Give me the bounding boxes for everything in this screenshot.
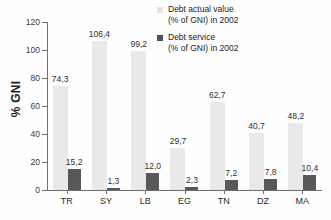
legend-label-line1: Debt service — [168, 32, 238, 43]
bar-value-label: 7,2 — [225, 168, 237, 178]
bar-chart: % GNI 020406080100120 74,315,2106,41,399… — [0, 0, 331, 220]
y-tick-label: 20 — [31, 157, 40, 167]
x-axis-label-EG: EG — [178, 196, 191, 206]
legend-label-line2: (% of GNI) in 2002 — [168, 15, 238, 26]
bar-value-label: 10,4 — [302, 163, 319, 173]
bar-value-label: 2,3 — [186, 175, 198, 185]
bar-group: 48,210,4 — [283, 22, 322, 190]
x-axis-label-LB: LB — [140, 196, 151, 206]
bar-MA-series1: 48,2 — [288, 123, 303, 190]
x-axis-label-DZ: DZ — [257, 196, 269, 206]
bar-value-label: 48,2 — [288, 111, 305, 121]
x-tick-mark — [185, 190, 186, 194]
bar-group: 40,77,8 — [243, 22, 282, 190]
legend-label: Debt actual value(% of GNI) in 2002 — [168, 4, 238, 25]
x-axis-label-TR: TR — [61, 196, 73, 206]
y-tick-label: 120 — [26, 17, 40, 27]
x-axis-label-MA: MA — [296, 196, 310, 206]
x-tick-mark — [106, 190, 107, 194]
x-axis-label-TN: TN — [218, 196, 230, 206]
y-tick-0: 0 — [47, 190, 52, 191]
y-axis-label: % GNI — [9, 64, 23, 134]
bar-DZ-series2: 7,8 — [264, 179, 277, 190]
x-tick-mark — [224, 190, 225, 194]
legend-item-1: Debt actual value(% of GNI) in 2002 — [157, 4, 238, 25]
bar-value-label: 40,7 — [248, 121, 265, 131]
bar-group: 106,41,3 — [86, 22, 125, 190]
bar-TR-series2: 15,2 — [68, 169, 81, 190]
x-tick-mark — [263, 190, 264, 194]
bar-TN-series2: 7,2 — [225, 180, 238, 190]
y-tick-label: 80 — [31, 73, 40, 83]
x-axis-label-SY: SY — [100, 196, 112, 206]
bar-value-label: 1,3 — [108, 176, 120, 186]
bar-value-label: 15,2 — [66, 157, 83, 167]
bar-TN-series1: 62,7 — [210, 102, 225, 190]
y-tick-mark — [42, 190, 47, 191]
y-tick-label: 40 — [31, 129, 40, 139]
bar-value-label: 99,2 — [130, 39, 147, 49]
legend-swatch-icon — [157, 35, 163, 41]
legend-label-line2: (% of GNI) in 2002 — [168, 43, 238, 54]
chart-legend: Debt actual value(% of GNI) in 2002Debt … — [157, 4, 238, 53]
bar-value-label: 12,0 — [144, 161, 161, 171]
bar-EG-series1: 29,7 — [170, 148, 185, 190]
x-tick-mark — [302, 190, 303, 194]
bar-SY-series2: 1,3 — [107, 188, 120, 190]
bar-value-label: 7,8 — [265, 167, 277, 177]
legend-label: Debt service(% of GNI) in 2002 — [168, 32, 238, 53]
bar-value-label: 106,4 — [89, 29, 110, 39]
bar-value-label: 29,7 — [170, 136, 187, 146]
legend-swatch-icon — [157, 7, 163, 13]
bar-LB-series2: 12,0 — [146, 173, 159, 190]
y-tick-label: 0 — [35, 185, 40, 195]
bar-TR-series1: 74,3 — [53, 86, 68, 190]
x-tick-mark — [145, 190, 146, 194]
bar-SY-series1: 106,4 — [92, 41, 107, 190]
legend-item-2: Debt service(% of GNI) in 2002 — [157, 32, 238, 53]
legend-label-line1: Debt actual value — [168, 4, 238, 15]
y-tick-label: 100 — [26, 45, 40, 55]
y-tick-label: 60 — [31, 101, 40, 111]
bar-MA-series2: 10,4 — [303, 175, 316, 190]
bar-group: 74,315,2 — [47, 22, 86, 190]
bar-value-label: 62,7 — [209, 90, 226, 100]
bar-EG-series2: 2,3 — [185, 187, 198, 190]
bar-value-label: 74,3 — [52, 74, 69, 84]
x-tick-mark — [67, 190, 68, 194]
bar-DZ-series1: 40,7 — [249, 133, 264, 190]
